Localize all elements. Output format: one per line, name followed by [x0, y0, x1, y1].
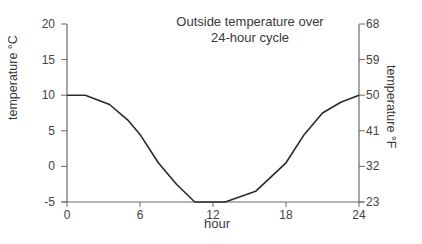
x-tick-label: 6: [137, 208, 144, 222]
temperature-chart: -50510152023324150596806121824 Outside t…: [0, 0, 422, 244]
y-axis-label-fahrenheit: temperature °F: [384, 65, 398, 149]
chart-title-line-1: Outside temperature over: [160, 14, 340, 30]
chart-title-line-2: 24-hour cycle: [160, 30, 340, 46]
y-tick-label-left: 10: [42, 88, 56, 102]
y-tick-label-right: 68: [366, 17, 380, 31]
y-tick-label-right: 50: [366, 88, 380, 102]
y-tick-label-right: 23: [366, 195, 380, 209]
temperature-line: [67, 95, 359, 202]
y-tick-label-right: 59: [366, 53, 380, 67]
y-tick-label-left: 5: [48, 124, 55, 138]
y-tick-label-left: 15: [42, 53, 56, 67]
x-tick-label: 18: [279, 208, 293, 222]
x-tick-label: 0: [64, 208, 71, 222]
y-tick-label-right: 41: [366, 124, 380, 138]
y-axis-label-celsius: temperature °C: [6, 35, 20, 120]
x-tick-label: 24: [352, 208, 366, 222]
y-tick-label-left: 0: [48, 159, 55, 173]
y-tick-label-left: 20: [42, 17, 56, 31]
chart-title: Outside temperature over 24-hour cycle: [160, 14, 340, 46]
x-axis-label: hour: [199, 216, 235, 231]
y-tick-label-right: 32: [366, 159, 380, 173]
y-tick-label-left: -5: [44, 195, 55, 209]
